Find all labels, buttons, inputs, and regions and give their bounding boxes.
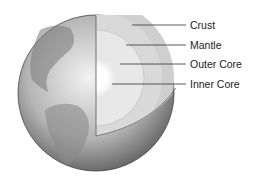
- label-crust: Crust: [190, 19, 215, 31]
- label-inner-core: Inner Core: [190, 78, 240, 90]
- label-outer-core: Outer Core: [190, 58, 242, 70]
- label-mantle: Mantle: [190, 39, 222, 51]
